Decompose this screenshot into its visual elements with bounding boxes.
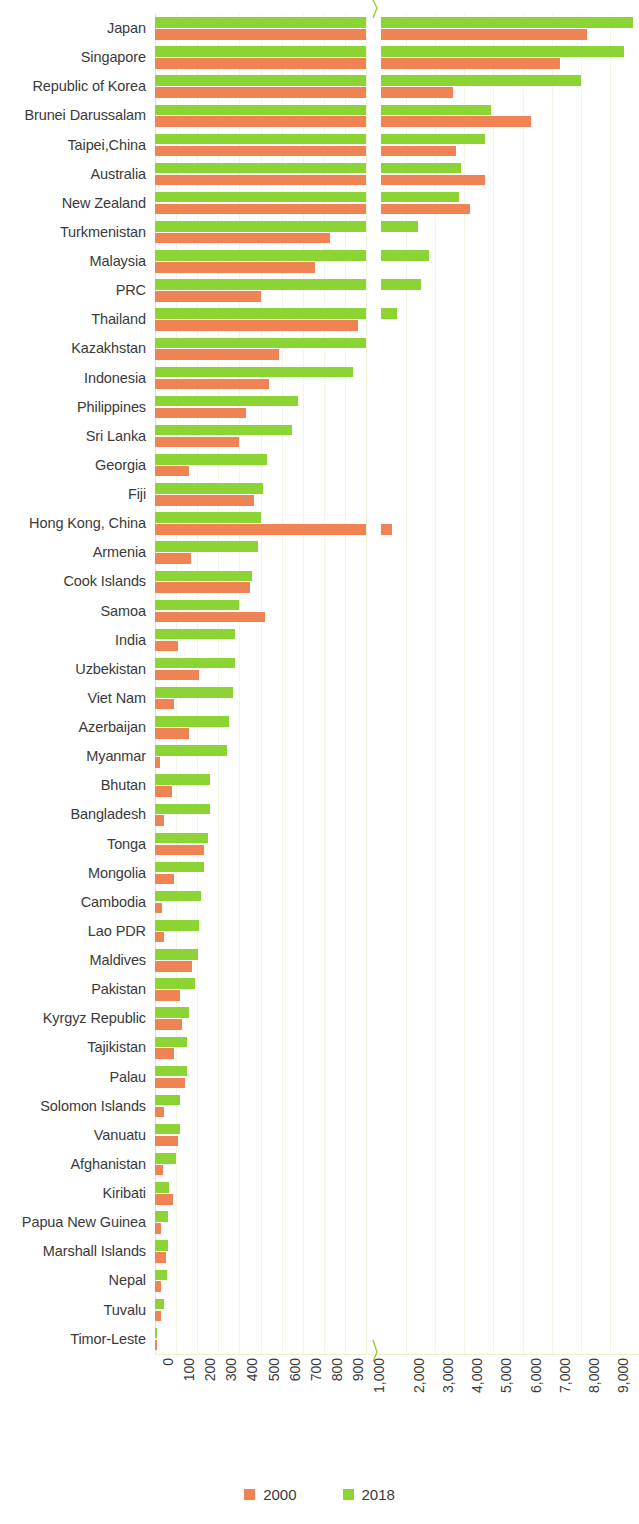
bar-2000: [155, 1281, 161, 1292]
category-row: India: [0, 626, 152, 655]
bar-row: [155, 946, 639, 975]
x-tick-label: 600: [287, 1358, 303, 1381]
x-tick-label: 6,000: [528, 1358, 544, 1393]
bar-2018: [155, 658, 235, 669]
category-labels: JapanSingaporeRepublic of KoreaBrunei Da…: [0, 14, 152, 1354]
bar-2018-upper: [377, 308, 397, 319]
bar-row: [155, 597, 639, 626]
bar-2000-lower: [155, 175, 366, 186]
bar-row: [155, 742, 639, 771]
bar-2000: [155, 1194, 173, 1205]
category-row: Tonga: [0, 830, 152, 859]
category-row: Bangladesh: [0, 800, 152, 829]
category-label: Georgia: [95, 451, 146, 480]
legend-swatch-2018: [343, 1489, 354, 1500]
category-row: Singapore: [0, 43, 152, 72]
bar-2018: [155, 1211, 168, 1222]
category-label: Afghanistan: [71, 1150, 147, 1179]
bar-2000-lower: [155, 116, 366, 127]
category-row: Fiji: [0, 480, 152, 509]
bar-2000-lower: [155, 58, 366, 69]
category-row: Papua New Guinea: [0, 1208, 152, 1237]
bar-row: [155, 43, 639, 72]
category-label: Myanmar: [86, 742, 146, 771]
bar-2000: [155, 1019, 182, 1030]
bar-2000-upper: [377, 116, 531, 127]
bar-row: [155, 771, 639, 800]
category-row: Armenia: [0, 538, 152, 567]
bar-2018-upper: [377, 46, 624, 57]
bar-2018-upper: [377, 134, 485, 145]
x-tick-label: 500: [266, 1358, 282, 1381]
bar-2018: [155, 396, 298, 407]
category-row: Australia: [0, 160, 152, 189]
bar-2000: [155, 291, 261, 302]
category-row: Georgia: [0, 451, 152, 480]
bar-2000: [155, 1340, 157, 1351]
category-label: Kazakhstan: [71, 334, 146, 363]
bar-2000: [155, 874, 174, 885]
category-row: Solomon Islands: [0, 1092, 152, 1121]
category-label: Sri Lanka: [86, 422, 146, 451]
bar-row: [155, 830, 639, 859]
category-label: Nepal: [109, 1266, 146, 1295]
category-row: Kazakhstan: [0, 334, 152, 363]
bar-row: [155, 334, 639, 363]
bar-2000: [155, 1107, 164, 1118]
bar-2018: [155, 745, 227, 756]
legend-item-2000[interactable]: 2000: [244, 1486, 296, 1503]
bar-2018: [155, 1066, 187, 1077]
bar-2018-lower: [155, 75, 366, 86]
category-row: Tuvalu: [0, 1296, 152, 1325]
bar-2018: [155, 1328, 157, 1339]
bar-2018-upper: [377, 338, 378, 349]
bar-2018-lower: [155, 192, 366, 203]
bar-row: [155, 218, 639, 247]
category-row: Palau: [0, 1063, 152, 1092]
category-row: Nepal: [0, 1266, 152, 1295]
bar-2018-lower: [155, 250, 366, 261]
bar-2018-lower: [155, 46, 366, 57]
bar-2018: [155, 1182, 169, 1193]
bar-2000: [155, 233, 330, 244]
bar-2018-lower: [155, 134, 366, 145]
bar-2018: [155, 1153, 176, 1164]
bar-2018: [155, 920, 199, 931]
bar-2000: [155, 699, 174, 710]
bar-2000: [155, 612, 265, 623]
bar-row: [155, 480, 639, 509]
bar-2018: [155, 949, 198, 960]
bar-2000: [155, 670, 199, 681]
category-row: Lao PDR: [0, 917, 152, 946]
bar-2000-lower: [155, 146, 366, 157]
x-tick-label: 100: [181, 1358, 197, 1381]
bar-2000: [155, 553, 191, 564]
category-label: Solomon Islands: [40, 1092, 146, 1121]
category-label: Pakistan: [91, 975, 146, 1004]
category-label: Vanuatu: [94, 1121, 146, 1150]
bar-2000: [155, 845, 204, 856]
bar-2018: [155, 600, 239, 611]
category-row: Hong Kong, China: [0, 509, 152, 538]
bar-2000: [155, 349, 279, 360]
category-label: Papua New Guinea: [22, 1208, 146, 1237]
bar-2018-upper: [377, 75, 581, 86]
legend-item-2018[interactable]: 2018: [343, 1486, 395, 1503]
bar-2018-upper: [377, 192, 459, 203]
x-axis-line: [155, 1354, 639, 1355]
bar-row: [155, 509, 639, 538]
category-row: Cambodia: [0, 888, 152, 917]
category-row: Republic of Korea: [0, 72, 152, 101]
category-label: Mongolia: [88, 859, 146, 888]
bar-row: [155, 1237, 639, 1266]
category-label: Philippines: [77, 393, 146, 422]
bar-row: [155, 101, 639, 130]
bar-2018-upper: [377, 250, 429, 261]
bar-2000-upper: [377, 87, 453, 98]
bar-row: [155, 14, 639, 43]
category-label: Lao PDR: [88, 917, 146, 946]
bar-2018: [155, 425, 292, 436]
category-row: Brunei Darussalam: [0, 101, 152, 130]
x-tick-label: 9,000: [615, 1358, 631, 1393]
bar-2000: [155, 1223, 161, 1234]
